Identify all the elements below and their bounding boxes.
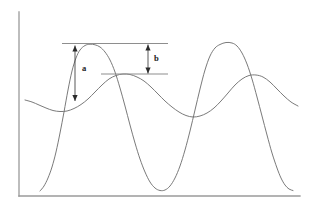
sharp-peak-curve xyxy=(40,42,293,191)
measurement-b-label: b xyxy=(154,53,159,63)
measurement-a-group: a xyxy=(72,46,87,102)
measurement-a-arrowhead-top xyxy=(72,46,77,52)
figure-root: a b xyxy=(0,0,311,211)
measurement-b-group: b xyxy=(145,45,159,74)
plot-canvas: a b xyxy=(0,0,311,211)
measurement-b-arrowhead-bottom xyxy=(145,68,150,74)
curves-group xyxy=(25,42,298,191)
reference-lines-group xyxy=(62,44,168,75)
measurement-b-arrowhead-top xyxy=(145,45,150,51)
measurement-a-arrowhead-bottom xyxy=(72,95,77,101)
measurement-a-label: a xyxy=(82,63,87,73)
axes-group xyxy=(19,12,300,196)
